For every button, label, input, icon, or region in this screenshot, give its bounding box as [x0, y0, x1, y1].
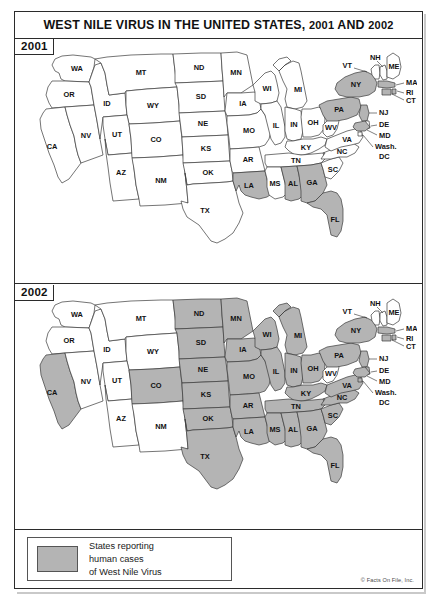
state-label-co: CO [150, 135, 161, 144]
state-label-mi: MI [294, 330, 302, 339]
state-label-oh: OH [307, 118, 318, 127]
state-label-sd: SD [196, 337, 207, 346]
state-ma [378, 327, 395, 334]
state-label-wv: WV [325, 123, 337, 132]
state-label-ga: GA [306, 423, 318, 432]
state-label-tx: TX [200, 451, 210, 460]
state-label-nm: NM [155, 176, 167, 185]
state-label-ny: NY [351, 80, 361, 89]
copyright-credit: © Facts On File, Inc. [361, 577, 414, 583]
state-label-az: AZ [116, 168, 126, 177]
state-label-tx: TX [200, 206, 210, 215]
state-label-wash: Wash. [375, 142, 397, 151]
state-label-il: IL [273, 366, 280, 375]
us-map-2002: WAORCANVIDMTWYUTAZCONMNDSDNEKSOKTXMNIAMO… [21, 289, 417, 527]
state-label-de: DE [379, 365, 389, 374]
leader-line-ma [396, 83, 404, 85]
state-label-wi: WI [262, 329, 271, 338]
state-label-wash: Wash. [375, 387, 397, 396]
leader-line-de [371, 125, 377, 126]
state-label-ma: MA [406, 78, 417, 87]
state-label-mn: MN [230, 68, 242, 77]
state-label-mo: MO [243, 126, 255, 135]
state-label-de: DE [379, 120, 389, 129]
map-figure: WEST NILE VIRUS IN THE UNITED STATES, 20… [14, 11, 423, 589]
state-label-ut: UT [112, 375, 122, 384]
leader-line-de [371, 371, 377, 372]
state-ct [382, 335, 391, 341]
leader-line-vt [354, 314, 367, 318]
state-label-ky: KY [301, 388, 311, 397]
leader-line-wash [363, 381, 373, 393]
state-label-mn: MN [230, 313, 242, 322]
state-label-md: MD [379, 376, 391, 385]
state-label-ok: OK [202, 168, 214, 177]
state-label-ca: CA [47, 142, 58, 151]
state-label-tn: TN [291, 156, 301, 165]
state-label-nj: NJ [379, 353, 388, 362]
state-label-wa: WA [71, 309, 84, 318]
figure-shadow-right [424, 14, 426, 594]
state-label-ar: AR [243, 400, 254, 409]
state-label-nm: NM [155, 421, 167, 430]
state-label-wv: WV [325, 368, 337, 377]
state-label-ct: CT [406, 96, 416, 105]
state-label-sc: SC [328, 165, 339, 174]
state-label-sc: SC [328, 410, 339, 419]
state-label-ar: AR [243, 155, 254, 164]
year-tag-2001: 2001 [15, 39, 54, 55]
state-nh [380, 65, 387, 80]
state-label-ok: OK [202, 413, 214, 422]
state-ri [392, 335, 396, 340]
state-label-id: ID [103, 344, 111, 353]
title-main: WEST NILE VIRUS IN THE UNITED STATES, [43, 18, 305, 32]
page-title: WEST NILE VIRUS IN THE UNITED STATES, 20… [43, 18, 393, 32]
state-label-va: VA [342, 135, 352, 144]
legend-line-1: States reporting [89, 540, 162, 553]
state-label-nv: NV [81, 376, 91, 385]
leader-line-wash [363, 135, 373, 147]
state-label-md: MD [379, 131, 391, 140]
state-label-or: OR [63, 90, 75, 99]
state-label-nh: NH [370, 298, 381, 307]
state-label-id: ID [103, 99, 111, 108]
legend-swatch-shaded [37, 546, 78, 572]
state-label-la: LA [244, 426, 255, 435]
state-label-mo: MO [243, 371, 255, 380]
leader-line-ri [397, 337, 404, 339]
state-label-nd: ND [194, 308, 205, 317]
state-label-va: VA [342, 380, 352, 389]
leader-line-md [367, 130, 377, 135]
state-dc [358, 378, 362, 382]
legend-line-2: human cases [89, 553, 162, 566]
state-label-al: AL [288, 424, 298, 433]
leader-line-vt [354, 68, 367, 72]
state-label-nh: NH [370, 53, 381, 62]
state-label-la: LA [244, 181, 255, 190]
state-label-me: ME [388, 62, 399, 71]
legend-panel: States reporting human cases of West Nil… [15, 530, 422, 588]
state-label-ia: IA [239, 344, 247, 353]
state-label-sd: SD [196, 92, 207, 101]
state-label-oh: OH [307, 363, 318, 372]
state-mi [273, 303, 307, 355]
leader-line-ct [392, 94, 404, 100]
state-nj [359, 105, 369, 121]
state-nj [359, 351, 369, 367]
legend-text: States reporting human cases of West Nil… [89, 540, 162, 579]
state-label-ia: IA [239, 99, 247, 108]
state-label-ne: NE [198, 364, 208, 373]
map-panel-2002: 2002 WAORCANVIDMTWYUTAZCONMNDSDNEKSOKTXM… [15, 285, 422, 530]
state-label-wi: WI [262, 84, 271, 93]
leader-line-ct [392, 340, 404, 346]
state-label-ky: KY [301, 143, 311, 152]
state-label-nv: NV [81, 131, 91, 140]
figure-title-bar: WEST NILE VIRUS IN THE UNITED STATES, 20… [15, 12, 422, 39]
state-label-nc: NC [337, 147, 348, 156]
state-label-nj: NJ [379, 108, 388, 117]
state-label-ca: CA [47, 387, 58, 396]
state-nh [380, 311, 387, 326]
state-label-dc: DC [379, 152, 390, 161]
state-label-ny: NY [351, 325, 361, 334]
title-year-2001: 2001 [309, 19, 334, 31]
